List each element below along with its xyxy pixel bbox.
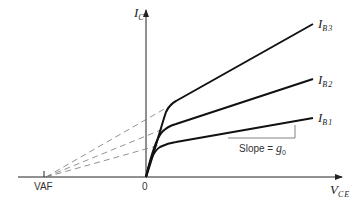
curve-ib1 [146,118,313,177]
y-axis-label: IC [134,6,145,22]
collector-curves [146,24,313,177]
diagram-canvas [0,0,359,206]
origin-label: 0 [142,182,148,192]
curve-ib2 [146,79,313,177]
x-axis-label: VCE [330,183,350,199]
curve-label-ib2: IB2 [318,73,333,89]
bjt-characteristics-diagram: IC VCE 0 VAF IB3 IB2 IB1 Slope = g0 [0,0,359,206]
curve-label-ib3: IB3 [318,17,333,33]
early-extrapolation-lines [46,104,173,177]
curve-ib3 [146,24,313,177]
slope-annotation: Slope = g0 [239,142,286,156]
curve-label-ib1: IB1 [318,111,333,127]
vaf-label: VAF [34,182,53,192]
